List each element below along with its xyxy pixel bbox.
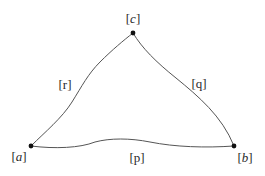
edge-r [31, 33, 133, 146]
bracket-close: ] [136, 11, 140, 26]
curved-triangle-diagram: [c] [a] [b] [r] [q] [p] [0, 0, 265, 176]
vertex-a-dot [29, 144, 34, 149]
vertex-label-a: [a] [11, 150, 26, 163]
edge-label-p: [p] [129, 151, 144, 164]
vertex-label-b: [b] [237, 151, 252, 164]
bracket-close: ] [22, 149, 26, 164]
edge-label-q: [q] [191, 77, 206, 90]
edge-p [31, 139, 234, 148]
vertex-b-dot [232, 144, 237, 149]
edge-label-r: [r] [59, 78, 72, 91]
vertex-label-c: [c] [126, 12, 140, 25]
vertex-c-dot [131, 31, 136, 36]
bracket-close: ] [248, 150, 252, 165]
edge-q [133, 33, 234, 146]
